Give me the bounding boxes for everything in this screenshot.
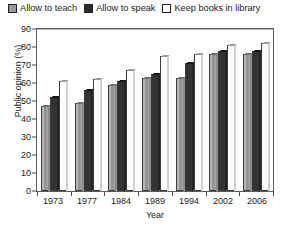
bar-allow-to-teach-1994 — [176, 78, 184, 191]
bar-allow-to-speak-1989 — [151, 74, 159, 191]
x-tick-mark-5 — [206, 192, 207, 196]
legend-label-keep-books-in-library: Keep books in library — [174, 3, 260, 14]
bar-allow-to-speak-1977 — [84, 90, 92, 191]
x-tick-label-1973: 1973 — [36, 196, 70, 210]
x-tick-mark-4 — [172, 192, 173, 196]
bar-group-2006 — [239, 29, 273, 191]
x-tick-mark-7 — [273, 192, 274, 196]
x-tick-label-1977: 1977 — [70, 196, 104, 210]
bar-allow-to-speak-1984 — [117, 81, 125, 191]
legend-item-allow-to-speak: Allow to speak — [84, 3, 155, 14]
x-tick-label-1994: 1994 — [172, 196, 206, 210]
y-tick-label-0: 0 — [7, 187, 31, 196]
legend-swatch-allow-to-teach-icon — [8, 4, 17, 13]
bar-allow-to-teach-2002 — [209, 54, 217, 191]
bar-allow-to-speak-1973 — [50, 97, 58, 191]
bar-allow-to-speak-2006 — [252, 51, 260, 191]
bar-allow-to-teach-1984 — [108, 85, 116, 191]
legend-swatch-allow-to-speak-icon — [84, 4, 93, 13]
bar-keep-books-in-library-1994 — [194, 54, 202, 191]
chart-legend: Allow to teach Allow to speak Keep books… — [8, 1, 274, 16]
bar-keep-books-in-library-1989 — [160, 56, 168, 191]
bar-group-1989 — [138, 29, 172, 191]
x-tick-mark-2 — [104, 192, 105, 196]
x-tick-label-1984: 1984 — [104, 196, 138, 210]
bar-keep-books-in-library-1977 — [93, 79, 101, 191]
x-tick-mark-3 — [138, 192, 139, 196]
bar-allow-to-teach-1989 — [142, 78, 150, 191]
legend-label-allow-to-teach: Allow to teach — [20, 3, 77, 14]
bar-keep-books-in-library-2002 — [227, 45, 235, 191]
bars-layer — [37, 29, 273, 191]
bar-group-2002 — [206, 29, 240, 191]
legend-item-allow-to-teach: Allow to teach — [8, 3, 77, 14]
legend-label-allow-to-speak: Allow to speak — [96, 3, 155, 14]
bar-group-1994 — [172, 29, 206, 191]
x-tick-mark-6 — [239, 192, 240, 196]
y-axis-label: Public opinion (%) — [13, 17, 23, 145]
bar-allow-to-teach-1977 — [75, 103, 83, 191]
x-tick-mark-0 — [37, 192, 38, 196]
chart-figure: Allow to teach Allow to speak Keep books… — [0, 0, 282, 226]
x-tick-mark-1 — [71, 192, 72, 196]
x-tick-label-2006: 2006 — [240, 196, 274, 210]
y-tick-label-20: 20 — [7, 151, 31, 160]
bar-group-1973 — [37, 29, 71, 191]
x-tick-label-1989: 1989 — [138, 196, 172, 210]
bar-group-1977 — [71, 29, 105, 191]
bar-keep-books-in-library-1973 — [59, 81, 67, 191]
x-tick-label-2002: 2002 — [206, 196, 240, 210]
legend-swatch-keep-books-in-library-icon — [162, 4, 171, 13]
bar-allow-to-teach-2006 — [243, 54, 251, 191]
y-tick-label-10: 10 — [7, 169, 31, 178]
bar-allow-to-teach-1973 — [41, 106, 49, 191]
x-axis-label: Year — [36, 210, 274, 220]
legend-item-keep-books-in-library: Keep books in library — [162, 3, 260, 14]
bar-keep-books-in-library-1984 — [126, 70, 134, 191]
bar-allow-to-speak-1994 — [185, 63, 193, 191]
y-axis: 0102030405060708090 Public opinion (%) — [0, 22, 36, 198]
bar-group-1984 — [104, 29, 138, 191]
x-axis-tick-labels: 1973197719841989199420022006 — [36, 196, 274, 210]
bar-allow-to-speak-2002 — [218, 51, 226, 191]
bar-keep-books-in-library-2006 — [261, 43, 269, 191]
